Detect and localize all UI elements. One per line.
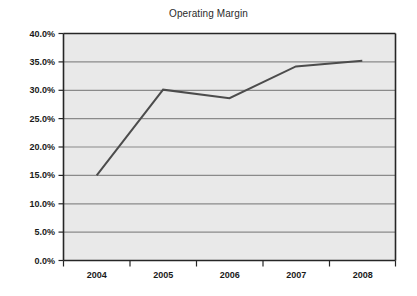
operating-margin-chart: Operating Margin [0, 0, 417, 296]
chart-plot-area [0, 0, 417, 296]
x-axis-ticks [64, 261, 396, 267]
